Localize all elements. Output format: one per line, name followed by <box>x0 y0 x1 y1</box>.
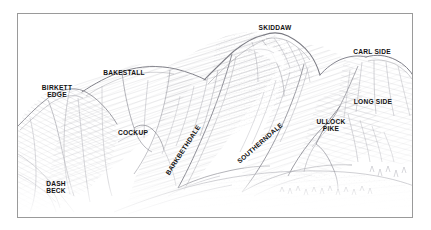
illustration-plate: SKIDDAW CARL SIDE BAKESTALL BIRKETT EDGE… <box>18 14 412 217</box>
mountain-panorama-drawing <box>18 14 412 217</box>
label-dash-beck: DASH BECK <box>46 180 66 195</box>
label-skiddaw: SKIDDAW <box>259 24 292 31</box>
page-root: SKIDDAW CARL SIDE BAKESTALL BIRKETT EDGE… <box>0 0 431 230</box>
illustration-frame: SKIDDAW CARL SIDE BAKESTALL BIRKETT EDGE… <box>17 13 413 218</box>
label-long-side: LONG SIDE <box>354 98 393 105</box>
label-ullock-pike: ULLOCK PIKE <box>317 118 346 133</box>
label-birkett-edge: BIRKETT EDGE <box>42 84 72 99</box>
bottom-fade <box>18 182 412 217</box>
label-cockup: COCKUP <box>118 129 148 136</box>
label-bakestall: BAKESTALL <box>103 69 145 76</box>
label-carl-side: CARL SIDE <box>353 48 391 55</box>
